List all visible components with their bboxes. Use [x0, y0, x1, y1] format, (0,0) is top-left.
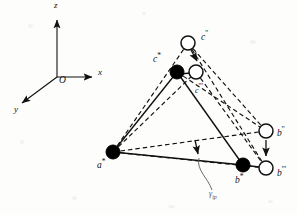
node-c-prime3 [189, 65, 203, 79]
node-label-a-star: a* [97, 158, 106, 171]
node-label-c-prime2-marks: '' [205, 29, 208, 38]
node-b-star [236, 158, 250, 172]
paper-speckle [268, 200, 273, 203]
node-label-c-prime3-marks: ''' [199, 82, 203, 91]
edge-cstar-to-bprime2 [177, 72, 266, 131]
axis-label-x: x [98, 68, 102, 77]
paper-speckle [142, 12, 146, 15]
paper-speckle [168, 205, 175, 208]
edge-a-to-cprime3 [113, 72, 196, 152]
gamma-leader-curve [199, 158, 212, 190]
figure-root: z x y O a* b* c* b'' b''' c'' c''' γip [0, 0, 297, 215]
node-label-b-star-marks: * [240, 172, 244, 181]
edge-a-to-cprime2 [113, 43, 188, 152]
node-label-c-prime3: c''' [195, 83, 203, 95]
node-a-star [106, 145, 120, 159]
node-label-b-prime2-marks: '' [282, 125, 285, 134]
node-label-c-prime2: c'' [201, 30, 208, 43]
edge-a-to-bprime2 [113, 131, 266, 152]
edge-astar-to-bstar [113, 152, 243, 165]
axis-label-z: z [54, 1, 58, 10]
node-label-b-star: b* [235, 173, 244, 186]
node-b-prime3 [259, 161, 273, 175]
node-b-prime2 [259, 124, 273, 138]
angle-label-gamma-subscript: ip [212, 194, 217, 200]
paper-speckle [20, 140, 24, 144]
diagram-canvas [0, 0, 297, 215]
paper-speckle [28, 24, 33, 28]
edge-cstar-to-bstar [177, 72, 243, 165]
node-label-b-prime3-marks: ''' [282, 165, 286, 174]
axis-label-origin: O [59, 76, 66, 86]
y-axis [22, 77, 57, 103]
node-label-c-star-marks: * [157, 51, 161, 60]
dashed-edges-group [113, 43, 266, 168]
gamma-angle-arrow [195, 140, 198, 154]
axes-group [22, 20, 92, 103]
edge-astar-to-cstar [113, 72, 177, 152]
solid-nodes-group [106, 65, 250, 172]
axis-label-y: y [14, 105, 18, 114]
node-c-prime2 [181, 36, 195, 50]
paper-speckle [250, 40, 256, 44]
edge-cprime3-to-bprime3 [196, 72, 266, 168]
node-c-star [170, 65, 184, 79]
node-label-b-prime3: b''' [277, 166, 286, 179]
node-label-c-star: c* [153, 52, 161, 65]
angle-label-gamma: γip [209, 190, 217, 200]
node-label-b-prime2: b'' [277, 126, 285, 139]
paper-speckle [72, 196, 77, 200]
node-label-a-star-marks: * [102, 157, 106, 166]
